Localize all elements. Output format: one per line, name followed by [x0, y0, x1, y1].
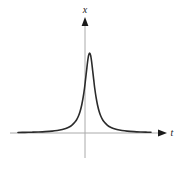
- plot-canvas: x t: [0, 0, 184, 170]
- resonance-plot-figure: x t: [0, 0, 184, 170]
- t-axis-label: t: [171, 127, 174, 138]
- t-axis-arrowhead: [158, 130, 167, 137]
- x-axis-arrowhead: [82, 17, 89, 26]
- x-axis-label: x: [82, 4, 88, 15]
